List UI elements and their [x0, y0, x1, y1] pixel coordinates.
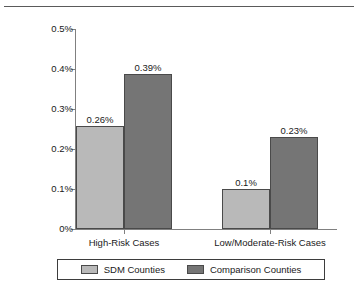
legend-swatch-icon-comparison-counties: [187, 265, 204, 274]
legend-item-comparison-counties[interactable]: Comparison Counties: [187, 264, 301, 275]
chart-legend: SDM Counties Comparison Counties: [57, 259, 325, 280]
legend-item-sdm-counties[interactable]: SDM Counties: [81, 264, 165, 275]
chart-figure: 0.5% 0.4% 0.3% 0.2% 0.1% 0% 0.26% 0.39% …: [0, 0, 358, 301]
legend-label-sdm-counties: SDM Counties: [104, 264, 165, 275]
legend-swatch-icon-sdm-counties: [81, 265, 98, 274]
y-tick-label-4: 0.4%: [13, 64, 73, 74]
y-tick-label-1: 0.1%: [13, 184, 73, 194]
x-tick-mark-high-risk: [124, 229, 125, 234]
bar-sdm-high-risk[interactable]: [76, 126, 124, 229]
bar-comparison-low-moderate-risk[interactable]: [270, 137, 318, 229]
x-tick-mark-low-moderate-risk: [270, 229, 271, 234]
bar-comparison-high-risk[interactable]: [124, 74, 172, 229]
bar-label-comparison-high-risk: 0.39%: [116, 62, 180, 73]
bar-label-sdm-high-risk: 0.26%: [68, 114, 132, 125]
y-tick-label-3: 0.3%: [13, 104, 73, 114]
x-axis-line: [75, 229, 337, 230]
legend-label-comparison-counties: Comparison Counties: [210, 264, 301, 275]
y-tick-label-0: 0%: [13, 224, 73, 234]
plot-area: 0.5% 0.4% 0.3% 0.2% 0.1% 0% 0.26% 0.39% …: [0, 0, 358, 301]
x-tick-label-low-moderate-risk: Low/Moderate-Risk Cases: [200, 237, 340, 249]
x-tick-label-high-risk: High-Risk Cases: [64, 237, 184, 249]
y-tick-label-5: 0.5%: [13, 24, 73, 34]
bar-label-sdm-low-moderate-risk: 0.1%: [214, 177, 278, 188]
bar-sdm-low-moderate-risk[interactable]: [222, 189, 270, 229]
bar-label-comparison-low-moderate-risk: 0.23%: [262, 125, 326, 136]
y-tick-label-2: 0.2%: [13, 144, 73, 154]
